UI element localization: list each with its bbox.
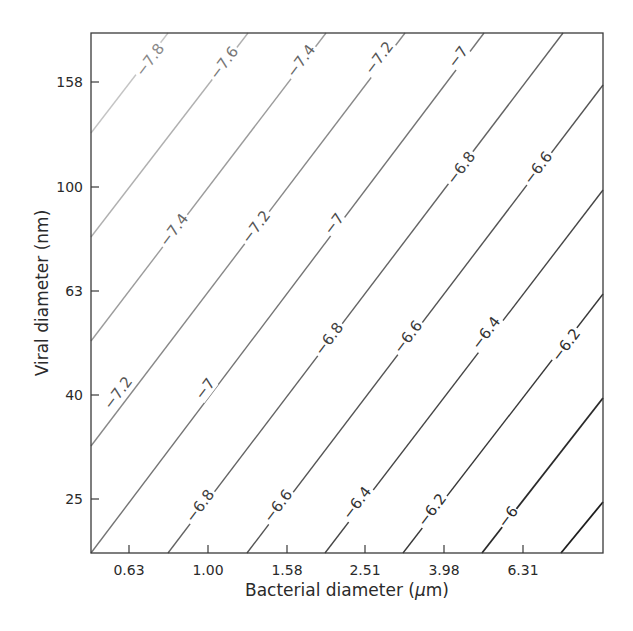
contour-label: −7.6 xyxy=(205,41,244,84)
contour-label: −6.8 xyxy=(442,146,481,189)
contour-label: −6.8 xyxy=(181,484,220,527)
contour-line xyxy=(561,502,603,553)
y-tick-label: 63 xyxy=(65,283,83,299)
contour-label: −7.4 xyxy=(282,39,321,82)
y-axis-label: Viral diameter (nm) xyxy=(32,210,52,377)
contour-label: −7 xyxy=(444,42,472,71)
contour-line xyxy=(168,33,563,553)
contour-line xyxy=(91,33,484,553)
contour-label: −6.6 xyxy=(389,315,428,358)
contour-lines xyxy=(91,33,603,553)
y-axis-ticks: 158100634025 xyxy=(56,74,99,507)
contour-labels: −7.8−7.6−7.4−7.2−7−7.4−7.2−7−6.8−6.6−7.2… xyxy=(99,36,586,531)
contour-label: −7.2 xyxy=(360,36,399,79)
contour-label: −7 xyxy=(320,209,348,238)
contour-label: −6.2 xyxy=(413,488,452,531)
y-tick-label: 40 xyxy=(65,387,83,403)
contour-label: −7 xyxy=(191,374,219,403)
y-tick-label: 100 xyxy=(56,179,83,195)
x-axis-ticks: 0.631.001.582.513.986.31 xyxy=(113,545,538,578)
contour-line xyxy=(482,398,603,553)
contour-chart: −7.8−7.6−7.4−7.2−7−7.4−7.2−7−6.8−6.6−7.2… xyxy=(0,0,633,631)
svg-text:−7: −7 xyxy=(320,210,348,239)
x-tick-label: 1.58 xyxy=(271,562,302,578)
y-tick-label: 25 xyxy=(65,491,83,507)
contour-line xyxy=(91,33,326,341)
plot-frame xyxy=(91,33,603,553)
x-tick-label: 6.31 xyxy=(507,562,538,578)
y-tick-label: 158 xyxy=(56,74,83,90)
svg-text:−7: −7 xyxy=(191,375,219,404)
svg-text:−7: −7 xyxy=(444,43,472,72)
x-tick-label: 2.51 xyxy=(349,562,380,578)
x-tick-label: 1.00 xyxy=(192,562,223,578)
contour-label: −6.4 xyxy=(338,481,377,524)
contour-label: −6.4 xyxy=(467,311,506,354)
x-axis-label: Bacterial diameter (μm) xyxy=(245,580,449,600)
x-tick-label: 3.98 xyxy=(428,562,459,578)
contour-label: −6.6 xyxy=(259,484,298,527)
x-tick-label: 0.63 xyxy=(113,562,144,578)
